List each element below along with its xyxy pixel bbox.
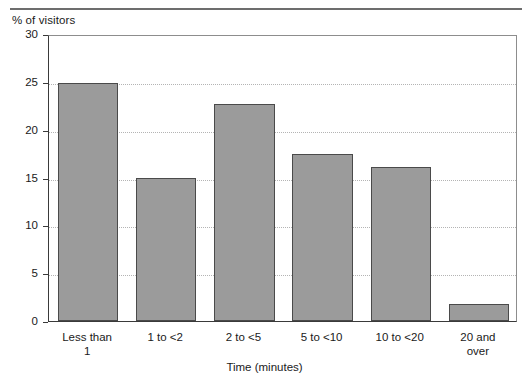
y-tick-label: 30 <box>4 29 38 41</box>
y-tick-label: 0 <box>4 316 38 328</box>
y-tick-mark <box>43 131 48 132</box>
bar <box>449 304 509 321</box>
bar <box>58 83 118 321</box>
x-tick-label: 20 andover <box>439 330 517 358</box>
gridline <box>49 275 516 276</box>
x-tick-label: 2 to <5 <box>204 330 282 344</box>
y-tick-label: 10 <box>4 220 38 232</box>
x-tick-label: 10 to <20 <box>361 330 439 344</box>
y-tick-mark <box>43 179 48 180</box>
y-tick-label: 5 <box>4 268 38 280</box>
y-tick-mark <box>43 322 48 323</box>
y-tick-mark <box>43 226 48 227</box>
gridline <box>49 132 516 133</box>
y-tick-label: 20 <box>4 125 38 137</box>
header-divider <box>10 8 522 10</box>
x-tick-label: Less than1 <box>48 330 126 358</box>
y-tick-label: 25 <box>4 77 38 89</box>
x-axis-title: Time (minutes) <box>0 361 529 373</box>
gridline <box>49 227 516 228</box>
y-axis-title: % of visitors <box>12 14 75 26</box>
bar <box>136 178 196 321</box>
bar <box>214 104 274 321</box>
chart-figure: % of visitors 051015202530 Less than11 t… <box>0 0 529 383</box>
bar <box>292 154 352 321</box>
x-tick-label: 5 to <10 <box>283 330 361 344</box>
gridline <box>49 180 516 181</box>
y-tick-mark <box>43 83 48 84</box>
y-tick-mark <box>43 274 48 275</box>
bar <box>371 167 431 321</box>
gridline <box>49 84 516 85</box>
x-tick-label: 1 to <2 <box>126 330 204 344</box>
plot-inner <box>49 36 516 321</box>
plot-area <box>48 35 517 322</box>
y-tick-mark <box>43 35 48 36</box>
y-tick-label: 15 <box>4 173 38 185</box>
